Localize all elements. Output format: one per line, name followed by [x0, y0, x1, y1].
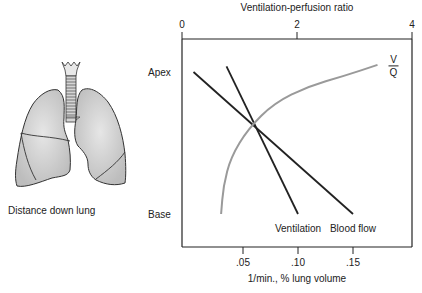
top-axis-title: Ventilation-perfusion ratio: [241, 2, 354, 13]
series-label-ventilation: Ventilation: [275, 223, 321, 234]
series-line-ventilation: [227, 66, 299, 214]
lung-illustration: [16, 62, 126, 186]
top-tick-label: 2: [294, 19, 300, 30]
series-line-v-q: [221, 65, 377, 214]
top-tick-label: 0: [179, 19, 185, 30]
series-line-blood-flow: [194, 72, 354, 214]
right-lung-icon: [16, 90, 71, 187]
vq-chart: Distance down lung Ventilation-perfusion…: [0, 0, 422, 293]
bottom-tick-label: .10: [291, 257, 305, 268]
left-axis-label: Distance down lung: [8, 205, 95, 216]
top-tick-label: 4: [409, 19, 415, 30]
series-label-vq-denominator: Q: [390, 67, 398, 78]
series-label-blood-flow: Blood flow: [330, 223, 377, 234]
plot-frame: [182, 39, 412, 247]
series-label-vq-numerator: V: [390, 54, 397, 65]
left-category-apex: Apex: [148, 67, 171, 78]
left-lung-icon: [75, 89, 126, 185]
bottom-tick-label: .15: [346, 257, 360, 268]
left-category-base: Base: [148, 209, 171, 220]
bottom-tick-label: .05: [236, 257, 250, 268]
bottom-axis-title: 1/min., % lung volume: [248, 273, 347, 284]
